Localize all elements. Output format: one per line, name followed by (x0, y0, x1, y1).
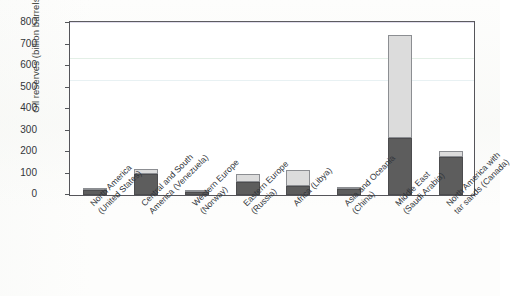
y-axis-tick-label: 0 (3, 188, 37, 199)
y-axis-tick (65, 87, 70, 88)
y-axis-tick (65, 194, 70, 195)
scan-artifact-line (70, 80, 474, 81)
y-axis-tick (65, 22, 70, 23)
scan-artifact-line (70, 58, 474, 59)
y-axis-tick-label: 300 (3, 124, 37, 135)
y-axis-tick-label: 700 (3, 38, 37, 49)
y-axis-tick-label: 200 (3, 145, 37, 156)
y-axis-tick (65, 44, 70, 45)
y-axis-tick-label: 600 (3, 59, 37, 70)
y-axis-tick-label: 100 (3, 167, 37, 178)
y-axis-tick (65, 151, 70, 152)
y-axis-tick (65, 130, 70, 131)
y-axis-tick (65, 65, 70, 66)
y-axis-tick-label: 400 (3, 102, 37, 113)
y-axis-tick-label: 800 (3, 16, 37, 27)
y-axis-tick (65, 108, 70, 109)
y-axis-tick-label: 500 (3, 81, 37, 92)
bar-segment-additional (388, 35, 412, 139)
scan-artifact-line (70, 22, 474, 23)
y-axis-tick (65, 173, 70, 174)
